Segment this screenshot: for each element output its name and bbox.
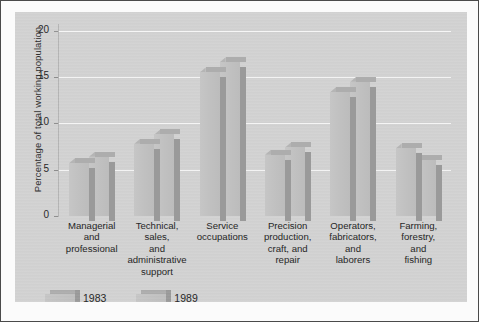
bar-side xyxy=(285,160,291,221)
bar-top xyxy=(422,155,442,160)
y-tick-label-20: 20 xyxy=(19,24,49,35)
y-tick-mark-20 xyxy=(54,31,58,32)
bar-side xyxy=(89,168,95,221)
legend-swatch-1983 xyxy=(45,294,75,303)
bar-face xyxy=(265,155,285,216)
bar-top xyxy=(160,129,180,134)
bar-side xyxy=(416,153,422,221)
category-label-line: and xyxy=(59,231,124,242)
legend-swatch-side xyxy=(75,290,80,303)
bar-face xyxy=(200,72,220,216)
gridline-10 xyxy=(59,123,451,124)
bar-side xyxy=(154,149,160,221)
category-label-line: Farming, xyxy=(386,220,451,231)
legend-swatch-face xyxy=(136,294,166,303)
bar-side xyxy=(305,152,311,221)
gridline-5 xyxy=(59,170,451,171)
chart-figure: Percentage of total working population 0… xyxy=(0,0,479,322)
category-label-line: Operators, xyxy=(320,220,385,231)
bar-face xyxy=(69,163,89,216)
bar-top xyxy=(95,152,115,157)
category-label-2: Serviceoccupations xyxy=(190,220,255,243)
bar-top xyxy=(271,150,291,155)
category-label-line: and xyxy=(320,243,385,254)
category-label-line: Technical, xyxy=(124,220,189,231)
bar-face xyxy=(134,144,154,216)
legend-item-1983: 1983 xyxy=(45,292,106,302)
bar-1983-3 xyxy=(265,155,285,216)
bar-face xyxy=(396,148,416,216)
category-label-line: Service xyxy=(190,220,255,231)
bar-1983-2 xyxy=(200,72,220,216)
bar-top xyxy=(291,142,311,147)
bar-1983-1 xyxy=(134,144,154,216)
y-tick-mark-5 xyxy=(54,170,58,171)
y-tick-mark-15 xyxy=(54,77,58,78)
chart-panel: Percentage of total working population 0… xyxy=(15,12,467,302)
category-label-line: support xyxy=(124,266,189,277)
bar-1983-0 xyxy=(69,163,89,216)
category-labels: ManagerialandprofessionalTechnical,sales… xyxy=(59,220,451,282)
bar-top xyxy=(336,87,356,92)
category-label-line: administrative xyxy=(124,254,189,265)
category-label-line: and xyxy=(124,243,189,254)
category-label-line: craft, and xyxy=(255,243,320,254)
category-label-line: fabricators, xyxy=(320,231,385,242)
bar-top xyxy=(140,139,160,144)
y-tick-mark-10 xyxy=(54,123,58,124)
bar-side xyxy=(109,162,115,221)
gridline-15 xyxy=(59,77,451,78)
category-label-line: and xyxy=(386,243,451,254)
bar-1983-5 xyxy=(396,148,416,216)
category-label-line: production, xyxy=(255,231,320,242)
category-label-5: Farming,forestry,andfishing xyxy=(386,220,451,266)
bar-side xyxy=(174,139,180,221)
category-label-line: Precision xyxy=(255,220,320,231)
category-label-3: Precisionproduction,craft, andrepair xyxy=(255,220,320,266)
bar-side xyxy=(220,77,226,221)
bar-top xyxy=(356,77,376,82)
bar-side xyxy=(350,97,356,221)
legend-item-1989: 1989 xyxy=(136,292,197,302)
bar-side xyxy=(240,67,246,221)
bar-1983-4 xyxy=(330,92,350,216)
y-tick-label-0: 0 xyxy=(19,209,49,220)
legend-swatch-face xyxy=(45,294,75,303)
bar-face xyxy=(330,92,350,216)
legend-swatch-1989 xyxy=(136,294,166,303)
legend-swatch-side xyxy=(166,290,171,303)
bar-top xyxy=(226,57,246,62)
legend-label-1989: 1989 xyxy=(174,292,197,302)
category-label-line: repair xyxy=(255,254,320,265)
bar-top xyxy=(206,67,226,72)
legend-label-1983: 1983 xyxy=(83,292,106,302)
category-label-line: sales, xyxy=(124,231,189,242)
bar-top xyxy=(75,158,95,163)
category-label-line: forestry, xyxy=(386,231,451,242)
bar-side xyxy=(370,87,376,221)
bar-top xyxy=(402,143,422,148)
y-tick-label-15: 15 xyxy=(19,70,49,81)
category-label-line: occupations xyxy=(190,231,255,242)
category-label-1: Technical,sales,andadministrativesupport xyxy=(124,220,189,277)
category-label-4: Operators,fabricators,andlaborers xyxy=(320,220,385,266)
chart-legend: 1983 1989 xyxy=(45,288,228,302)
category-label-line: professional xyxy=(59,243,124,254)
plot-area: 05101520 xyxy=(59,24,451,216)
y-tick-mark-0 xyxy=(54,216,58,217)
y-axis-title: Percentage of total working population xyxy=(32,12,43,210)
gridline-20 xyxy=(59,31,451,32)
category-label-line: fishing xyxy=(386,254,451,265)
category-label-0: Managerialandprofessional xyxy=(59,220,124,254)
category-label-line: Managerial xyxy=(59,220,124,231)
y-tick-label-10: 10 xyxy=(19,116,49,127)
category-label-line: laborers xyxy=(320,254,385,265)
y-tick-label-5: 5 xyxy=(19,163,49,174)
bar-side xyxy=(436,165,442,222)
